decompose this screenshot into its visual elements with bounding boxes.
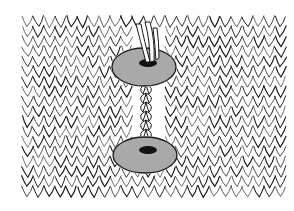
- lower-button-disc: [112, 136, 178, 174]
- disc-hole: [139, 146, 157, 154]
- knitted-button-illustration: [0, 0, 294, 211]
